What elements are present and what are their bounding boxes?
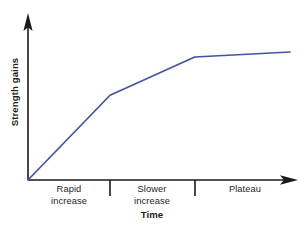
- phase-label-plateau: Plateau: [200, 184, 290, 196]
- axes-group: [23, 13, 298, 196]
- series-group: [28, 52, 290, 180]
- x-axis-label: Time: [107, 209, 197, 221]
- chart-container: Rapid increase Slower increase Plateau T…: [0, 0, 305, 230]
- phase-label-slower-increase: Slower increase: [107, 184, 197, 207]
- phase-label-rapid-increase: Rapid increase: [24, 184, 114, 207]
- strength-gains-line: [28, 52, 290, 180]
